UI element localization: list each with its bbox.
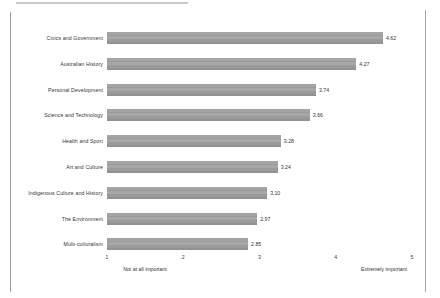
bar-row: Personal Development3.74 (0, 77, 440, 103)
bar-value-label: 4.27 (359, 58, 369, 70)
bar-container: 2.85 (107, 238, 248, 250)
axis-caption-high: Extremely important (361, 266, 407, 272)
bar-container: 3.28 (107, 135, 281, 147)
bar-value-label: 3.10 (270, 187, 280, 199)
bar-container: 3.74 (107, 84, 316, 96)
x-axis-tick-label: 2 (182, 254, 185, 260)
bar-value-label: 2.85 (251, 238, 261, 250)
x-axis-tick-label: 1 (106, 254, 109, 260)
category-label: Civics and Government (47, 25, 103, 51)
bar-container: 3.10 (107, 187, 267, 199)
x-axis-tick-label: 5 (411, 254, 414, 260)
x-axis-tick-label: 3 (258, 254, 261, 260)
category-label: Personal Development (48, 77, 103, 103)
category-label: Health and Sport (62, 128, 103, 154)
x-axis: 12345Not at all importantExtremely impor… (0, 254, 440, 298)
bar: 3.10 (107, 187, 267, 199)
category-label: Art and Culture (66, 154, 103, 180)
bar-row: The Environment2.97 (0, 206, 440, 232)
bar-container: 3.24 (107, 161, 278, 173)
bar: 3.66 (107, 109, 310, 121)
category-label: Australian History (60, 51, 103, 77)
bar-row: Art and Culture3.24 (0, 154, 440, 180)
x-axis-tick-label: 4 (334, 254, 337, 260)
bar-chart: Civics and Government4.62Australian Hist… (0, 0, 440, 298)
category-label: Science and Technology (44, 102, 103, 128)
bar-value-label: 3.28 (284, 135, 294, 147)
bar-value-label: 4.62 (386, 32, 396, 44)
bar-row: Australian History4.27 (0, 51, 440, 77)
plot-area: Civics and Government4.62Australian Hist… (0, 22, 440, 254)
category-label: The Environment (62, 206, 103, 232)
bar-container: 4.27 (107, 58, 356, 70)
bar-value-label: 2.97 (260, 213, 270, 225)
bar-container: 3.66 (107, 109, 310, 121)
bar-value-label: 3.74 (319, 84, 329, 96)
bar-value-label: 3.24 (281, 161, 291, 173)
bar: 3.28 (107, 135, 281, 147)
bar-value-label: 3.66 (313, 109, 323, 121)
bar-row: Civics and Government4.62 (0, 25, 440, 51)
bar: 3.74 (107, 84, 316, 96)
category-label: Indigenous Culture and History (28, 180, 103, 206)
bar-row: Science and Technology3.66 (0, 102, 440, 128)
bar-container: 2.97 (107, 213, 257, 225)
bar: 4.27 (107, 58, 356, 70)
bar: 3.24 (107, 161, 278, 173)
bar-container: 4.62 (107, 32, 383, 44)
bar: 4.62 (107, 32, 383, 44)
bar: 2.97 (107, 213, 257, 225)
bar: 2.85 (107, 238, 248, 250)
axis-caption-low: Not at all important (123, 266, 167, 272)
bar-row: Indigenous Culture and History3.10 (0, 180, 440, 206)
bar-row: Health and Sport3.28 (0, 128, 440, 154)
